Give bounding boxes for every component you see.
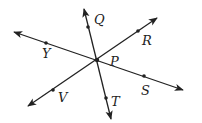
point-y <box>44 41 48 45</box>
label-y: Y <box>42 46 52 61</box>
point-t <box>104 96 108 100</box>
point-r <box>136 29 140 33</box>
label-q: Q <box>94 12 105 27</box>
point-s <box>142 74 146 78</box>
label-t: T <box>111 94 121 109</box>
label-p: P <box>109 54 119 69</box>
point-v <box>51 88 55 92</box>
label-r: R <box>141 33 152 48</box>
label-v: V <box>58 90 69 105</box>
geometry-diagram: Q R Y P V T S <box>0 0 202 123</box>
point-q <box>86 25 90 29</box>
label-s: S <box>141 83 150 98</box>
point-p <box>95 58 99 62</box>
